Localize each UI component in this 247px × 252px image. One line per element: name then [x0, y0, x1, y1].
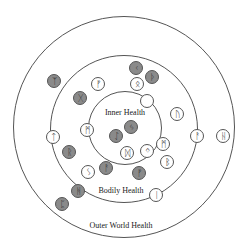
bodily-health-label: Bodily Health — [98, 186, 143, 195]
rune-algiz-icon: ᛉ — [47, 74, 61, 88]
rune-thurisaz-icon: ᚦ — [145, 70, 159, 84]
rune-hagalaz-icon: ᚺ — [216, 129, 230, 143]
rune-ansuz-2-icon: ᚨ — [99, 161, 113, 175]
rune-ingwaz-icon: ᛜ — [140, 144, 154, 158]
rune-blank-icon — [140, 94, 154, 108]
rune-dagaz-icon: ᛞ — [120, 146, 134, 160]
rune-fehu-2-icon: ᚠ — [132, 166, 146, 180]
rune-gebo-icon: ᚷ — [73, 91, 87, 105]
inner-health-label: Inner Health — [105, 108, 145, 117]
rune-raidho-icon: ᚱ — [62, 145, 76, 159]
health-rings-diagram: Inner Health Bodily Health Outer World H… — [0, 0, 247, 252]
rune-fehu-1-icon: ᚠ — [91, 77, 105, 91]
rune-berkano-icon: ᛒ — [160, 155, 174, 169]
rune-isa-icon: ᛁ — [149, 188, 163, 202]
rune-uruz-icon: ᚢ — [170, 107, 184, 121]
rune-sowilo-icon: ᛊ — [81, 165, 95, 179]
rune-eihwaz-icon: ᛇ — [109, 129, 123, 143]
rune-perthro-icon: ᛈ — [55, 197, 69, 211]
rune-mannaz-2-icon: ᛗ — [156, 137, 170, 151]
rune-othala-icon: ᛟ — [130, 77, 144, 91]
rune-mannaz-1-icon: ᛗ — [80, 123, 94, 137]
outer-world-health-label: Outer World Health — [89, 221, 152, 230]
rune-kenaz-icon: ᚲ — [129, 61, 143, 75]
rune-tiwaz-icon: ᛏ — [46, 130, 60, 144]
rune-ansuz-icon: ᚨ — [190, 129, 204, 143]
rune-hagalaz-2-icon: ᚻ — [71, 184, 85, 198]
rune-jera-icon: ᛃ — [124, 120, 138, 134]
